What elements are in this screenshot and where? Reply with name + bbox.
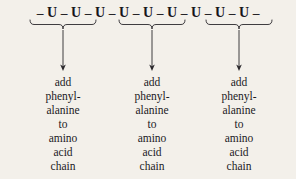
codon-text-line: amino bbox=[15, 131, 111, 145]
codon-text-line: add bbox=[104, 75, 200, 89]
codon-text-line: add bbox=[191, 75, 287, 89]
codon-text-line: amino bbox=[191, 131, 287, 145]
codon-text-block-2: add phenyl- alanine to amino acid chain bbox=[104, 75, 200, 173]
codon-text-line: alanine bbox=[191, 103, 287, 117]
codon-translation-figure: – U – U – U – U – U – U – U – U – U – bbox=[0, 0, 296, 179]
codon-text-line: add bbox=[15, 75, 111, 89]
codon-text-line: acid bbox=[15, 145, 111, 159]
codon-text-line: chain bbox=[191, 159, 287, 173]
codon-text-line: acid bbox=[191, 145, 287, 159]
underbrace-icon-1 bbox=[29, 19, 97, 30]
underbrace-icon-2 bbox=[118, 19, 186, 30]
codon-text-line: to bbox=[15, 117, 111, 131]
codon-text-line: phenyl- bbox=[104, 89, 200, 103]
codon-group-1: add phenyl- alanine to amino acid chain bbox=[15, 19, 111, 173]
down-arrow-icon-2 bbox=[145, 30, 159, 72]
codon-text-line: phenyl- bbox=[191, 89, 287, 103]
codon-text-line: to bbox=[104, 117, 200, 131]
codon-text-line: chain bbox=[15, 159, 111, 173]
codon-text-line: alanine bbox=[104, 103, 200, 117]
codon-text-block-3: add phenyl- alanine to amino acid chain bbox=[191, 75, 287, 173]
codon-text-line: chain bbox=[104, 159, 200, 173]
codon-text-line: acid bbox=[104, 145, 200, 159]
underbrace-icon-3 bbox=[205, 19, 273, 30]
codon-group-2: add phenyl- alanine to amino acid chain bbox=[104, 19, 200, 173]
codon-text-line: amino bbox=[104, 131, 200, 145]
down-arrow-icon-3 bbox=[232, 30, 246, 72]
codon-text-line: alanine bbox=[15, 103, 111, 117]
down-arrow-icon-1 bbox=[56, 30, 70, 72]
codon-text-block-1: add phenyl- alanine to amino acid chain bbox=[15, 75, 111, 173]
codon-group-3: add phenyl- alanine to amino acid chain bbox=[191, 19, 287, 173]
codon-text-line: to bbox=[191, 117, 287, 131]
codon-text-line: phenyl- bbox=[15, 89, 111, 103]
